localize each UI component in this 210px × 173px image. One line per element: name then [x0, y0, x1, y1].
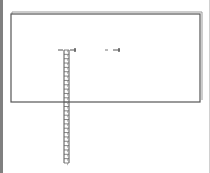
- marker-right: [105, 48, 120, 52]
- diagram-canvas: [0, 0, 210, 173]
- panel-shadow: [12, 12, 202, 100]
- panel: [11, 14, 200, 102]
- ruler: [64, 50, 69, 165]
